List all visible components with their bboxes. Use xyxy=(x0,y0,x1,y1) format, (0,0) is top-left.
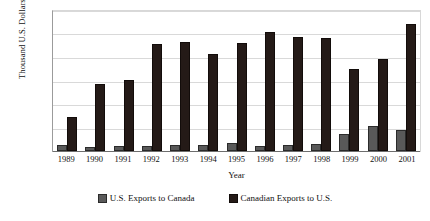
bar-canadian-exports-1999 xyxy=(349,69,359,151)
bar-canadian-exports-2000 xyxy=(378,59,388,151)
bar-us-exports-1998 xyxy=(311,144,321,151)
bar-group-1996 xyxy=(251,11,279,151)
x-tick-2000: 2000 xyxy=(364,154,392,164)
bar-us-exports-1997 xyxy=(283,145,293,151)
bar-us-exports-1995 xyxy=(227,143,237,151)
bar-canadian-exports-1991 xyxy=(124,80,134,151)
bar-canadian-exports-1998 xyxy=(321,38,331,151)
gray-square-icon xyxy=(98,194,107,203)
x-tick-1997: 1997 xyxy=(279,154,307,164)
bar-group-1992 xyxy=(138,11,166,151)
x-tick-1994: 1994 xyxy=(194,154,222,164)
legend-item-us-exports: U.S. Exports to Canada xyxy=(98,193,195,203)
bar-group-2001 xyxy=(392,11,420,151)
x-tick-2001: 2001 xyxy=(393,154,421,164)
bar-us-exports-1999 xyxy=(339,134,349,151)
bar-us-exports-2000 xyxy=(368,126,378,151)
bar-us-exports-1994 xyxy=(198,145,208,151)
bar-group-1998 xyxy=(307,11,335,151)
bar-group-1997 xyxy=(279,11,307,151)
legend-label-canadian-exports: Canadian Exports to U.S. xyxy=(241,193,333,203)
x-axis-title: Year xyxy=(52,170,421,180)
bar-group-1999 xyxy=(335,11,363,151)
bar-us-exports-1993 xyxy=(170,145,180,151)
x-tick-1992: 1992 xyxy=(137,154,165,164)
bar-canadian-exports-1992 xyxy=(152,44,162,151)
bar-group-1989 xyxy=(53,11,81,151)
legend-label-us-exports: U.S. Exports to Canada xyxy=(110,193,195,203)
bar-group-2000 xyxy=(364,11,392,151)
bar-us-exports-1992 xyxy=(142,146,152,151)
bar-group-1993 xyxy=(166,11,194,151)
legend-item-canadian-exports: Canadian Exports to U.S. xyxy=(229,193,333,203)
x-axis-tick-labels: 1989199019911992199319941995199619971998… xyxy=(52,154,421,164)
x-tick-1996: 1996 xyxy=(251,154,279,164)
plot-area xyxy=(52,10,421,152)
bar-group-1991 xyxy=(109,11,137,151)
x-tick-1991: 1991 xyxy=(109,154,137,164)
bar-us-exports-1996 xyxy=(255,146,265,151)
bar-canadian-exports-1989 xyxy=(67,117,77,151)
bar-us-exports-2001 xyxy=(396,130,406,151)
bar-canadian-exports-1996 xyxy=(265,32,275,152)
black-square-icon xyxy=(229,194,238,203)
bar-chart: Thousand U.S. Dollars 1,200 1,000 800 60… xyxy=(0,0,430,221)
x-tick-1990: 1990 xyxy=(80,154,108,164)
bar-canadian-exports-1995 xyxy=(237,43,247,151)
x-tick-1998: 1998 xyxy=(308,154,336,164)
bar-canadian-exports-1993 xyxy=(180,42,190,151)
chart-legend: U.S. Exports to Canada Canadian Exports … xyxy=(0,193,430,203)
bar-canadian-exports-2001 xyxy=(406,24,416,151)
bar-us-exports-1991 xyxy=(114,146,124,151)
bar-groups xyxy=(53,11,420,151)
bar-group-1994 xyxy=(194,11,222,151)
bar-us-exports-1990 xyxy=(85,147,95,151)
bar-canadian-exports-1994 xyxy=(208,54,218,151)
x-tick-1999: 1999 xyxy=(336,154,364,164)
x-tick-1989: 1989 xyxy=(52,154,80,164)
x-axis-line xyxy=(53,151,420,152)
bar-group-1995 xyxy=(222,11,250,151)
bar-canadian-exports-1990 xyxy=(95,84,105,151)
x-tick-1995: 1995 xyxy=(222,154,250,164)
x-tick-1993: 1993 xyxy=(166,154,194,164)
bar-us-exports-1989 xyxy=(57,145,67,151)
bar-group-1990 xyxy=(81,11,109,151)
bar-canadian-exports-1997 xyxy=(293,37,303,151)
